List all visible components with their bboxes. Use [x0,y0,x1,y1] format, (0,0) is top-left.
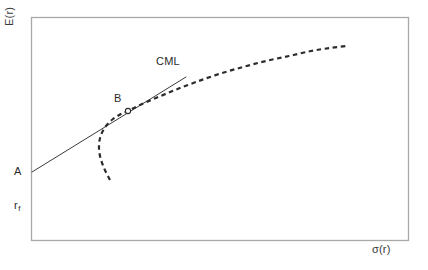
y-axis-title: E(r) [6,8,46,52]
tangency-point-marker [125,108,130,113]
risk-free-rate-subscript: f [18,204,20,213]
x-axis-title: σ(r) [372,244,391,255]
cml-label: CML [156,56,180,67]
y-axis-title-text: E(r) [4,7,15,26]
point-a-label: A [14,166,22,177]
plot-frame [32,18,409,241]
risk-free-rate-label: rf [14,200,20,211]
plot-canvas [0,0,428,270]
point-b-label: B [114,93,122,104]
cml-diagram-figure: E(r) σ(r) A rf B CML [0,0,428,270]
